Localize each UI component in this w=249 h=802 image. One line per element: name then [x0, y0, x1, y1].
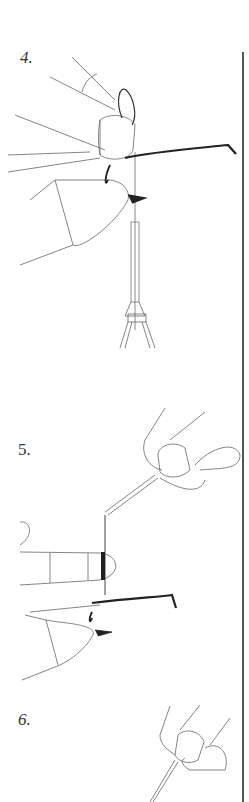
- instruction-page: 4. 5. 6.: [0, 0, 249, 802]
- step-5-illustration: [20, 408, 240, 595]
- step-6-illustration: [150, 705, 230, 802]
- fly-tying-illustration: [0, 0, 249, 802]
